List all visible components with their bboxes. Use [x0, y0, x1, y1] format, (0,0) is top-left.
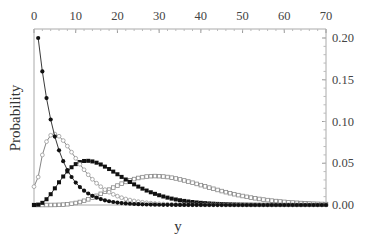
data-point-filled-circle	[132, 202, 136, 206]
data-point-filled-circle	[94, 196, 98, 200]
data-point-filled-square	[45, 197, 49, 201]
data-point-open-circle	[116, 194, 120, 198]
data-point-filled-square	[145, 189, 149, 193]
data-point-open-square	[45, 203, 49, 207]
data-point-open-circle	[74, 156, 78, 160]
data-point-filled-square	[149, 190, 153, 194]
data-point-filled-circle	[107, 199, 111, 203]
data-point-filled-circle	[199, 203, 203, 207]
data-point-filled-circle	[228, 203, 232, 207]
data-point-filled-square	[90, 159, 94, 163]
data-series	[32, 36, 328, 207]
data-point-filled-square	[161, 194, 165, 198]
data-point-open-square	[82, 199, 86, 203]
data-point-open-square	[141, 175, 145, 179]
x-tick-label: 10	[69, 9, 82, 23]
data-point-filled-circle	[120, 201, 124, 205]
data-point-filled-circle	[311, 203, 315, 207]
data-point-filled-circle	[224, 203, 228, 207]
data-point-open-square	[74, 201, 78, 205]
data-point-filled-circle	[245, 203, 249, 207]
data-point-filled-circle	[99, 197, 103, 201]
x-tick-label: 20	[111, 9, 124, 23]
data-point-filled-circle	[40, 69, 44, 73]
data-point-filled-square	[140, 187, 144, 191]
data-point-filled-circle	[49, 117, 53, 121]
data-point-open-square	[61, 203, 65, 207]
data-point-open-square	[249, 196, 253, 200]
data-point-open-square	[266, 198, 270, 202]
data-point-filled-circle	[282, 203, 286, 207]
data-point-open-circle	[86, 173, 90, 177]
data-point-open-square	[245, 195, 249, 199]
data-point-filled-square	[103, 165, 107, 169]
data-point-filled-circle	[270, 203, 274, 207]
data-point-filled-circle	[161, 203, 165, 207]
data-point-open-square	[49, 203, 53, 207]
data-point-filled-square	[153, 192, 157, 196]
data-point-filled-square	[82, 159, 86, 163]
data-point-filled-circle	[157, 203, 161, 207]
data-point-open-square	[191, 181, 195, 185]
data-point-open-square	[57, 203, 61, 207]
data-point-filled-circle	[203, 203, 207, 207]
data-point-open-square	[86, 198, 90, 202]
data-point-open-square	[270, 199, 274, 203]
data-point-filled-circle	[111, 200, 115, 204]
data-point-filled-square	[57, 180, 61, 184]
data-point-open-square	[145, 175, 149, 179]
data-point-filled-square	[49, 192, 53, 196]
data-point-open-square	[257, 197, 261, 201]
x-tick-label: 0	[31, 9, 37, 23]
data-point-open-square	[253, 196, 257, 200]
data-point-open-circle	[107, 190, 111, 194]
data-point-open-square	[70, 202, 74, 206]
data-point-open-square	[53, 203, 57, 207]
data-point-filled-square	[174, 197, 178, 201]
data-point-filled-circle	[44, 96, 48, 100]
data-point-filled-square	[53, 186, 57, 190]
data-point-filled-circle	[124, 201, 128, 205]
data-point-open-square	[187, 180, 191, 184]
data-point-open-square	[237, 193, 241, 197]
data-point-filled-square	[32, 203, 36, 207]
data-point-open-circle	[36, 175, 40, 179]
x-tick-label: 50	[236, 9, 249, 23]
data-point-open-circle	[32, 185, 36, 189]
data-point-filled-circle	[186, 203, 190, 207]
data-point-filled-square	[61, 175, 65, 179]
data-point-open-square	[157, 174, 161, 178]
data-point-open-square	[178, 178, 182, 182]
data-point-filled-square	[111, 170, 115, 174]
data-point-open-square	[132, 177, 136, 181]
data-point-filled-circle	[78, 185, 82, 189]
data-point-filled-square	[132, 182, 136, 186]
data-point-open-square	[66, 202, 70, 206]
data-point-filled-circle	[278, 203, 282, 207]
data-point-filled-circle	[253, 203, 257, 207]
data-point-open-square	[136, 176, 140, 180]
y-tick-label: 0.20	[332, 31, 354, 45]
data-point-open-square	[203, 185, 207, 189]
data-point-filled-circle	[324, 203, 328, 207]
x-tick-label: 70	[320, 9, 333, 23]
data-point-filled-circle	[145, 202, 149, 206]
y-tick-label: 0.05	[332, 156, 354, 170]
data-point-filled-square	[95, 161, 99, 165]
data-point-open-circle	[45, 140, 49, 144]
data-point-open-square	[241, 194, 245, 198]
data-point-filled-circle	[74, 180, 78, 184]
data-point-open-square	[262, 198, 266, 202]
data-point-open-circle	[124, 197, 128, 201]
data-point-open-square	[120, 182, 124, 186]
data-point-filled-circle	[115, 200, 119, 204]
data-point-open-square	[199, 183, 203, 187]
y-tick-label: 0.10	[332, 115, 354, 129]
x-tick-label: 60	[278, 9, 291, 23]
data-point-filled-square	[178, 198, 182, 202]
data-point-filled-circle	[57, 148, 61, 152]
data-point-filled-circle	[86, 191, 90, 195]
data-point-open-circle	[49, 133, 53, 137]
data-point-filled-square	[36, 203, 40, 207]
data-point-filled-circle	[299, 203, 303, 207]
